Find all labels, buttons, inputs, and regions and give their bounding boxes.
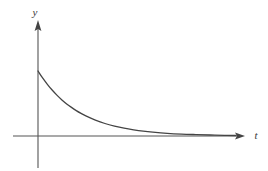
y-axis-label: y bbox=[32, 6, 38, 18]
t-axis-label: t bbox=[254, 129, 258, 141]
figure-canvas: y t bbox=[0, 0, 268, 171]
exponential-decay-plot: y t bbox=[0, 0, 268, 171]
exponential-decay-curve bbox=[38, 71, 236, 136]
